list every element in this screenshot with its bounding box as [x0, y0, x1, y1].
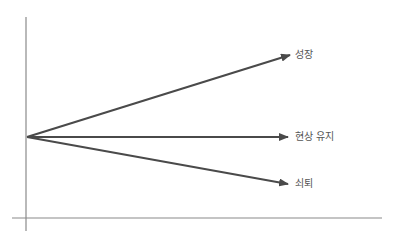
- status-quo-label: 현상 유지: [295, 131, 334, 143]
- growth-arrow: [27, 55, 290, 137]
- trajectory-diagram: [0, 0, 396, 241]
- decline-label: 쇠퇴: [295, 178, 313, 190]
- growth-label: 성장: [295, 49, 313, 61]
- decline-arrow: [27, 137, 288, 184]
